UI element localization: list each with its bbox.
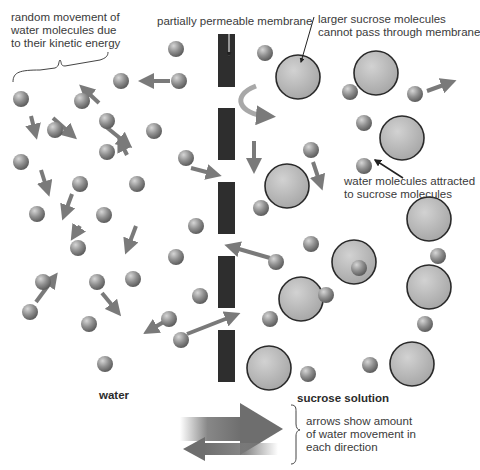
water-molecule — [13, 91, 29, 107]
sucrose-molecule — [279, 277, 323, 321]
sucrose-molecule — [380, 116, 424, 160]
label-line: to their kinetic energy — [11, 37, 120, 50]
label-line: cannot pass through membrane — [318, 26, 480, 39]
water-molecule — [129, 176, 145, 192]
water-molecule — [47, 122, 63, 138]
movement-arrow — [232, 247, 270, 258]
membrane-segment — [218, 182, 235, 234]
sucrose-large-label: larger sucrose molecules cannot pass thr… — [318, 13, 480, 39]
water-molecule — [356, 158, 372, 174]
water-molecule — [417, 316, 433, 332]
random-movement-label: random movement of water molecules due t… — [11, 11, 120, 50]
sucrose-molecule — [247, 346, 291, 390]
water-molecule — [74, 93, 90, 109]
water-molecule — [125, 271, 141, 287]
sucrose-molecule — [354, 51, 398, 95]
sucrose-molecules — [247, 51, 451, 390]
movement-arrow — [75, 226, 80, 234]
movement-arrow — [65, 194, 72, 213]
water-molecule — [188, 218, 204, 234]
water-molecule — [356, 115, 372, 131]
label-line: each direction — [306, 441, 416, 454]
sucrose-solution-label: sucrose solution — [297, 392, 389, 405]
label-line: water molecules due — [11, 24, 120, 37]
label-line: water molecules attracted — [344, 175, 475, 188]
water-molecule — [113, 73, 129, 89]
water-molecule — [89, 274, 105, 290]
water-molecule — [407, 86, 423, 102]
membrane-segment — [218, 330, 235, 382]
water-molecule — [430, 248, 446, 264]
membrane-segment — [218, 256, 235, 308]
label-line: random movement of — [11, 11, 120, 24]
water-molecule — [97, 356, 113, 372]
water-molecule — [96, 207, 112, 223]
water-molecule — [318, 287, 334, 303]
label-line: to sucrose molecules — [344, 188, 475, 201]
water-molecule — [253, 200, 269, 216]
water-molecule — [70, 240, 86, 256]
movement-arrow — [128, 226, 136, 247]
water-molecule — [29, 206, 45, 222]
label-line: of water movement in — [306, 428, 416, 441]
membrane-segment — [218, 108, 235, 160]
arrows-legend-label: arrows show amount of water movement in … — [306, 415, 416, 454]
water-molecule — [81, 316, 97, 332]
water-molecule — [99, 144, 115, 160]
movement-arrows — [31, 81, 449, 334]
membrane-label: partially permeable membrane — [157, 15, 312, 28]
water-molecule — [362, 357, 378, 373]
water-molecule — [342, 84, 358, 100]
membrane-segment — [218, 34, 235, 87]
water-molecule — [257, 45, 273, 61]
water-molecule — [351, 260, 367, 276]
water-molecule — [173, 332, 189, 348]
movement-arrow — [102, 293, 116, 310]
water-molecule — [13, 154, 29, 170]
water-molecule — [72, 176, 88, 192]
water-molecule — [303, 236, 319, 252]
movement-arrow — [427, 83, 449, 91]
water-molecule — [168, 249, 184, 265]
water-molecule — [171, 73, 187, 89]
membrane — [218, 34, 235, 382]
label-line: arrows show amount — [306, 415, 416, 428]
label-line: larger sucrose molecules — [318, 13, 480, 26]
curved-rebound-arrow — [241, 86, 266, 116]
water-molecule — [178, 150, 194, 166]
sucrose-molecule — [276, 55, 320, 99]
water-molecule — [99, 113, 115, 129]
water-molecule — [22, 304, 38, 320]
brace-random-movement — [13, 52, 108, 82]
movement-arrow — [31, 116, 35, 132]
water-molecule — [303, 142, 319, 158]
water-molecule — [146, 123, 162, 139]
water-molecule — [262, 311, 278, 327]
sucrose-molecule — [390, 342, 434, 386]
water-label: water — [99, 389, 129, 402]
movement-arrow — [313, 162, 320, 183]
sucrose-molecule — [407, 265, 451, 309]
movement-arrow — [41, 170, 47, 189]
attracted-label: water molecules attracted to sucrose mol… — [344, 175, 475, 201]
water-molecule — [268, 254, 284, 270]
movement-arrow — [121, 143, 127, 155]
sucrose-molecule — [265, 164, 309, 208]
movement-arrow — [191, 168, 214, 174]
water-molecule — [300, 366, 316, 382]
sucrose-molecule — [407, 197, 451, 241]
brace-legend — [291, 405, 300, 464]
water-molecule — [35, 274, 51, 290]
water-molecule — [192, 288, 208, 304]
water-molecule — [168, 41, 184, 57]
water-molecule — [161, 311, 177, 327]
